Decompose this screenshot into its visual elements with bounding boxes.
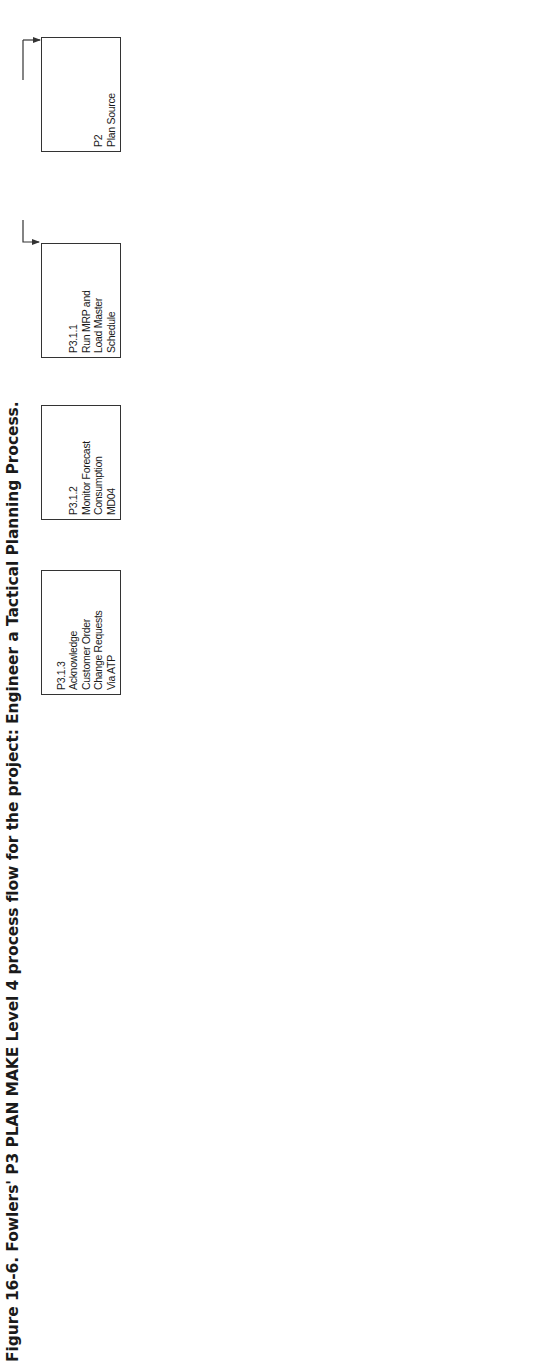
rotated-page: Figure 16-6. Fowlers' P3 PLAN MAKE Level… xyxy=(0,0,555,1370)
process-box-p3-1-1: P3.1.1 Run MRP and Load Master Schedule xyxy=(41,243,121,358)
process-box-p2: P2 Plan Source xyxy=(41,37,121,152)
process-box-p3-1-3: P3.1.3 Acknowledge Customer Order Change… xyxy=(41,570,121,695)
process-box-p3-1-2: P3.1.2 Monitor Forecast Consumption MD04 xyxy=(41,405,121,520)
